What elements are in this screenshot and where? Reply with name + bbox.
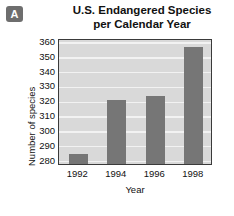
y-tick-label: 330 <box>39 81 55 91</box>
y-tick-label: 280 <box>39 156 55 166</box>
y-tick-label: 350 <box>39 52 55 62</box>
plot-area <box>58 39 212 165</box>
chart-figure: A U.S. Endangered Species per Calendar Y… <box>0 0 234 216</box>
bar <box>146 96 165 164</box>
chart-title-line-1: U.S. Endangered Species <box>73 4 212 16</box>
chart-title: U.S. Endangered Species per Calendar Yea… <box>52 3 232 31</box>
y-tick-label: 300 <box>39 126 55 136</box>
y-axis-tick-labels: 280290300310320330340350360 <box>26 39 55 165</box>
x-tick-label: 1996 <box>135 168 174 180</box>
chart-title-line-2: per Calendar Year <box>52 17 232 31</box>
bar <box>69 154 88 164</box>
x-axis-title: Year <box>58 184 212 195</box>
y-tick-label: 320 <box>39 96 55 106</box>
y-tick-label: 310 <box>39 111 55 121</box>
bar <box>107 100 126 164</box>
y-tick-label: 360 <box>39 37 55 47</box>
y-tick-label: 340 <box>39 67 55 77</box>
bar-series <box>59 40 211 164</box>
x-tick-label: 1992 <box>58 168 97 180</box>
bar <box>184 47 203 164</box>
x-tick-label: 1998 <box>174 168 213 180</box>
y-tick-label: 290 <box>39 141 55 151</box>
x-axis-tick-labels: 1992199419961998 <box>58 168 212 181</box>
panel-label-badge: A <box>6 6 23 22</box>
x-tick-label: 1994 <box>97 168 136 180</box>
